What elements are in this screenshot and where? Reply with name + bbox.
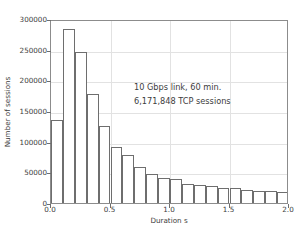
y-tick-label: 100000 [20,139,47,147]
y-axis-title: Number of sessions [4,77,12,148]
x-tick-label: 2.0 [282,206,293,214]
annotation-line-2: 6,171,848 TCP sessions [134,94,231,108]
chart-annotation: 10 Gbps link, 60 min. 6,171,848 TCP sess… [134,80,231,108]
y-tick-mark [47,143,51,144]
x-tick-label: 0.5 [104,206,115,214]
y-tick-label: 150000 [20,108,47,116]
x-axis-title: Duration s [150,217,187,225]
x-tick-label: 1.0 [163,206,174,214]
y-tick-mark [47,20,51,21]
y-tick-mark [47,173,51,174]
x-tick-label: 0.0 [44,206,55,214]
y-tick-label: 50000 [24,169,47,177]
chart-figure: 050000100000150000200000250000300000 0.0… [0,0,303,233]
y-tick-label: 200000 [20,77,47,85]
y-tick-mark [47,51,51,52]
y-tick-mark [47,81,51,82]
y-tick-mark [47,112,51,113]
x-tick-label: 1.5 [223,206,234,214]
annotation-line-1: 10 Gbps link, 60 min. [134,80,231,94]
y-tick-label: 300000 [20,16,47,24]
y-tick-label: 250000 [20,47,47,55]
